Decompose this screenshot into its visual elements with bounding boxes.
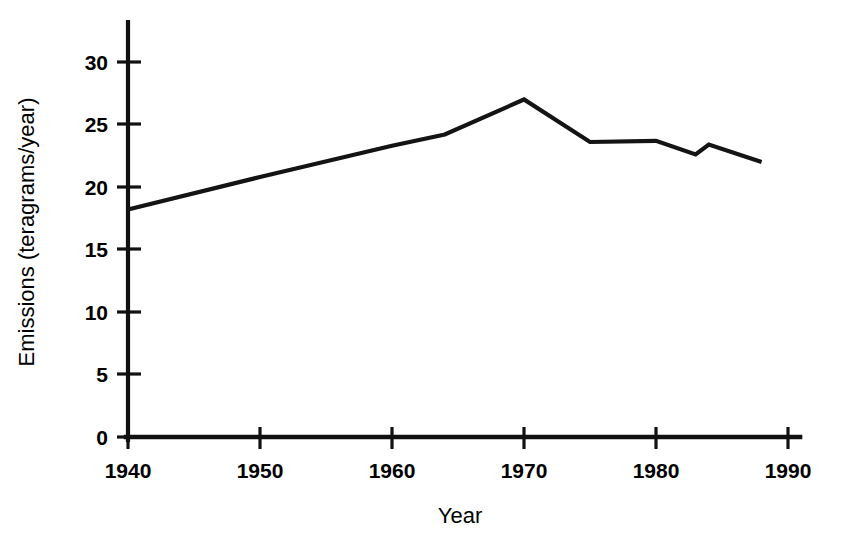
y-tick-label-20: 20 — [85, 176, 108, 199]
x-tick-label-1950: 1950 — [237, 459, 284, 482]
y-tick-label-0: 0 — [96, 426, 108, 449]
x-tick-label-1980: 1980 — [633, 459, 680, 482]
x-tick-label-1960: 1960 — [369, 459, 416, 482]
x-tick-label-1990: 1990 — [765, 459, 812, 482]
y-tick-label-5: 5 — [96, 363, 108, 386]
y-tick-label-15: 15 — [85, 238, 109, 261]
x-axis-title: Year — [438, 503, 482, 528]
x-tick-label-1940: 1940 — [105, 459, 152, 482]
x-tick-label-1970: 1970 — [501, 459, 548, 482]
chart-figure: 0 5 10 15 20 25 30 1940 1950 1960 1970 1… — [0, 0, 841, 543]
line-chart: 0 5 10 15 20 25 30 1940 1950 1960 1970 1… — [0, 0, 841, 543]
y-tick-label-30: 30 — [85, 51, 108, 74]
y-tick-label-25: 25 — [85, 113, 109, 136]
emissions-line-series — [128, 100, 762, 210]
y-tick-label-10: 10 — [85, 301, 108, 324]
y-axis-title: Emissions (teragrams/year) — [14, 98, 39, 367]
